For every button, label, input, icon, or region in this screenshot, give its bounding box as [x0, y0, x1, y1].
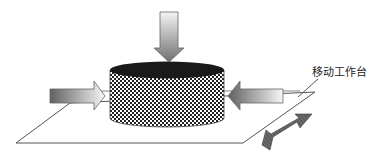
workpiece-cylinder [110, 62, 224, 128]
worktable-label: 移动工作台 [312, 63, 367, 79]
diagram-canvas: 移动工作台 [0, 0, 371, 164]
diagram-svg [0, 0, 371, 164]
top-force-arrow-icon [154, 12, 184, 62]
